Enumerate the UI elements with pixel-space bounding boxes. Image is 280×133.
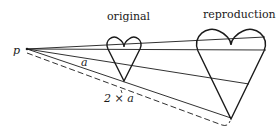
ray-to-tip (27, 49, 231, 118)
pantograph-scaling-diagram: p original reproduction a 2 × a (0, 0, 280, 133)
original-label: original (107, 10, 151, 23)
ray-upper (27, 49, 266, 50)
distance-a-label: a (81, 56, 88, 69)
distance-dashed-line (27, 53, 230, 126)
projection-rays (27, 37, 266, 118)
reproduction-heart (197, 29, 266, 119)
reproduction-label: reproduction (203, 8, 276, 21)
distance-2a-label: 2 × a (103, 92, 134, 105)
point-p-label: p (13, 44, 20, 57)
